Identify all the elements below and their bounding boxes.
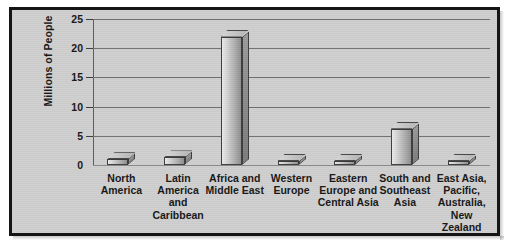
y-axis-title: Millions of People — [42, 6, 56, 116]
y-tick-mark-25 — [86, 19, 93, 20]
bar-side-face-5 — [412, 123, 419, 165]
bar-2[interactable] — [221, 30, 249, 165]
gridline-5 — [93, 136, 490, 137]
category-label-line: and — [145, 196, 212, 208]
y-tick-mark-20 — [86, 48, 93, 49]
gridline-15 — [93, 77, 490, 78]
bar-front-face-0 — [107, 159, 128, 165]
bar-front-face-6 — [448, 161, 469, 165]
category-label-line: Australia, — [428, 196, 495, 208]
category-label-line: Pacific, — [428, 184, 495, 196]
bar-front-face-4 — [334, 161, 355, 165]
bar-6[interactable] — [448, 154, 476, 165]
y-tick-mark-15 — [86, 77, 93, 78]
category-label-line: New — [428, 209, 495, 221]
bar-side-face-2 — [242, 31, 249, 165]
y-tick-label-0: 0 — [77, 159, 83, 171]
y-tick-label-25: 25 — [71, 13, 83, 25]
bar-front-face-1 — [164, 157, 185, 165]
y-axis-line — [93, 19, 94, 165]
bar-3[interactable] — [278, 154, 306, 165]
bar-4[interactable] — [334, 154, 362, 165]
category-label-line: Caribbean — [145, 209, 212, 221]
bar-5[interactable] — [391, 122, 419, 165]
frame-shadow-right — [500, 11, 504, 240]
gridline-0 — [93, 165, 490, 166]
gridline-25 — [93, 19, 490, 20]
y-tick-mark-5 — [86, 136, 93, 137]
gridline-20 — [93, 48, 490, 49]
y-tick-mark-10 — [86, 107, 93, 108]
bar-0[interactable] — [107, 152, 135, 165]
frame-shadow-bottom — [13, 236, 504, 240]
plot-area: 0510152025 — [93, 19, 490, 165]
y-tick-label-20: 20 — [71, 42, 83, 54]
y-tick-label-10: 10 — [71, 101, 83, 113]
y-tick-label-15: 15 — [71, 71, 83, 83]
gridline-10 — [93, 107, 490, 108]
figure-canvas: Millions of People 0510152025 NorthAmeri… — [0, 0, 523, 247]
bar-front-face-2 — [221, 37, 242, 165]
bar-front-face-5 — [391, 129, 412, 165]
y-tick-label-5: 5 — [77, 130, 83, 142]
chart-frame: Millions of People 0510152025 NorthAmeri… — [9, 7, 500, 236]
category-label-line: East Asia, — [428, 172, 495, 184]
bar-front-face-3 — [278, 161, 299, 165]
category-label-line: Zealand — [428, 221, 495, 233]
bar-1[interactable] — [164, 150, 192, 165]
category-label-6: East Asia,Pacific,Australia,NewZealand — [428, 172, 495, 233]
